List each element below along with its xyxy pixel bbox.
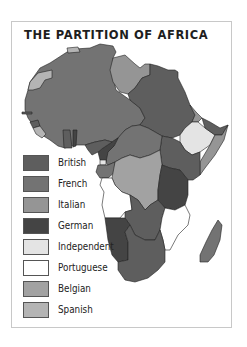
region-french-madagascar [200, 220, 222, 262]
legend-item-portuguese: Portuguese [23, 259, 114, 276]
swatch-italian [23, 197, 49, 213]
legend-label-independent: Independent [58, 241, 114, 252]
swatch-german [23, 218, 49, 234]
legend-item-french: French [23, 175, 91, 192]
legend-item-spanish: Spanish [23, 301, 98, 318]
legend-label-belgian: Belgian [58, 283, 91, 294]
legend-label-portuguese: Portuguese [58, 262, 108, 273]
legend-label-italian: Italian [58, 199, 85, 210]
legend-item-independent: Independent [23, 238, 121, 255]
region-spanish-rio-muni [100, 160, 106, 165]
swatch-portuguese [23, 260, 49, 276]
legend-label-british: British [58, 157, 86, 168]
legend-item-german: German [23, 217, 98, 234]
legend-label-german: German [58, 220, 93, 231]
legend-label-spanish: Spanish [58, 304, 93, 315]
swatch-french [23, 176, 49, 192]
region-portuguese-mozambique [160, 205, 190, 250]
legend-item-british: British [23, 154, 90, 171]
legend-label-french: French [58, 178, 87, 189]
region-spanish-north [67, 47, 80, 53]
swatch-spanish [23, 302, 49, 318]
legend-item-italian: Italian [23, 196, 89, 213]
region-british-gambia [22, 112, 32, 114]
swatch-belgian [23, 281, 49, 297]
swatch-independent [23, 239, 49, 255]
legend-item-belgian: Belgian [23, 280, 95, 297]
swatch-british [23, 155, 49, 171]
